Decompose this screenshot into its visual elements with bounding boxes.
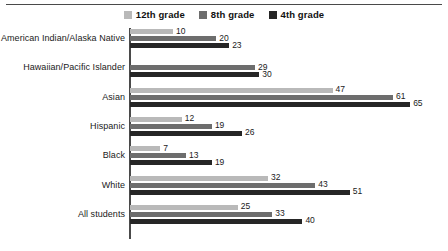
bar-value-label: 25 [241,201,250,211]
bar-row: 65 [130,102,448,107]
bar-row: 13 [130,153,448,158]
bar[interactable] [130,212,272,217]
bar-value-label: 43 [318,179,327,189]
bar-group: Asian476165 [0,85,448,114]
legend-entry-4th-grade[interactable]: 4th grade [269,9,325,20]
bar-value-label: 13 [189,150,198,160]
bar-group: White324351 [0,173,448,202]
bar-value-label: 61 [396,91,405,101]
bar-value-label: 40 [305,215,314,225]
bar-row: 19 [130,124,448,129]
bar-row: 61 [130,95,448,100]
bar-row: 7 [130,146,448,151]
bar-stack: 476165 [130,88,448,111]
bar[interactable] [130,117,182,122]
bar-row: 32 [130,176,448,181]
bar-value-label: 33 [275,208,284,218]
category-label: American Indian/Alaska Native [0,33,125,43]
bar-row [130,58,448,63]
bar[interactable] [130,65,255,70]
category-label: Black [0,150,125,160]
bar-value-label: 32 [271,172,280,182]
bar-row: 10 [130,29,448,34]
bar-value-label: 51 [353,186,362,196]
bar[interactable] [130,43,229,48]
bar-row: 25 [130,205,448,210]
bar-value-label: 20 [219,33,228,43]
category-label: Asian [0,92,125,102]
bar-group: American Indian/Alaska Native102023 [0,26,448,55]
top-divider-rule [6,4,442,5]
legend-label-4th-grade: 4th grade [281,9,325,20]
bar-value-label: 65 [413,98,422,108]
bar[interactable] [130,153,186,158]
bar-row: 23 [130,43,448,48]
bar-row: 19 [130,160,448,165]
bar-row: 12 [130,117,448,122]
bar-row: 40 [130,219,448,224]
bar-stack: 324351 [130,176,448,199]
bar-row: 26 [130,131,448,136]
bar[interactable] [130,190,350,195]
chart-legend: 12th grade 8th grade 4th grade [0,9,448,20]
bar-value-label: 7 [163,143,168,153]
legend-swatch-4th-grade [269,11,277,19]
legend-label-12th-grade: 12th grade [136,9,185,20]
category-label: White [0,180,125,190]
category-label: Hispanic [0,121,125,131]
bar-stack: 121926 [130,117,448,140]
bar[interactable] [130,160,212,165]
bar[interactable] [130,205,238,210]
bar-group: All students253340 [0,202,448,231]
bar[interactable] [130,176,268,181]
bar-row: 29 [130,65,448,70]
bar-stack: 71319 [130,146,448,169]
legend-swatch-12th-grade [124,11,132,19]
plot-area: American Indian/Alaska Native102023Hawai… [0,26,448,244]
bar-row: 30 [130,72,448,77]
bar[interactable] [130,183,315,188]
bar-row: 33 [130,212,448,217]
bar-row: 51 [130,190,448,195]
bar[interactable] [130,219,302,224]
legend-entry-12th-grade[interactable]: 12th grade [124,9,185,20]
bar[interactable] [130,131,242,136]
legend-label-8th-grade: 8th grade [211,9,255,20]
bar-value-label: 19 [215,157,224,167]
bar[interactable] [130,146,160,151]
legend-entry-8th-grade[interactable]: 8th grade [199,9,255,20]
bar-value-label: 23 [232,40,241,50]
bar-value-label: 26 [245,127,254,137]
bar-group: Hispanic121926 [0,114,448,143]
bar[interactable] [130,88,333,93]
bar-row: 43 [130,183,448,188]
category-label: All students [0,209,125,219]
bar-stack: 2930 [130,58,448,81]
bar[interactable] [130,29,173,34]
bar-group: Black71319 [0,143,448,172]
bar-chart-figure: 12th grade 8th grade 4th grade American … [0,0,448,251]
bar-stack: 102023 [130,29,448,52]
bar[interactable] [130,95,393,100]
legend-swatch-8th-grade [199,11,207,19]
bar-value-label: 47 [336,84,345,94]
bar[interactable] [130,124,212,129]
bar-stack: 253340 [130,205,448,228]
bar-row: 20 [130,36,448,41]
bar-value-label: 10 [176,26,185,36]
category-label: Hawaiian/Pacific Islander [0,62,125,72]
bar-value-label: 19 [215,120,224,130]
bar[interactable] [130,102,410,107]
bar[interactable] [130,72,259,77]
bar[interactable] [130,36,216,41]
bar-group: Hawaiian/Pacific Islander2930 [0,55,448,84]
bar-value-label: 30 [262,69,271,79]
bar-value-label: 12 [185,113,194,123]
